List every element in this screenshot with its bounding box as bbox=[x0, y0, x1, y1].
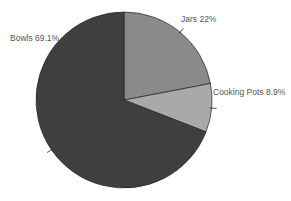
label-cooking-pots: Cooking Pots 8.9% bbox=[213, 87, 285, 97]
pie-chart bbox=[0, 0, 291, 201]
label-bowls: Bowls 69.1% bbox=[10, 33, 59, 43]
label-jars: Jars 22% bbox=[181, 14, 216, 24]
